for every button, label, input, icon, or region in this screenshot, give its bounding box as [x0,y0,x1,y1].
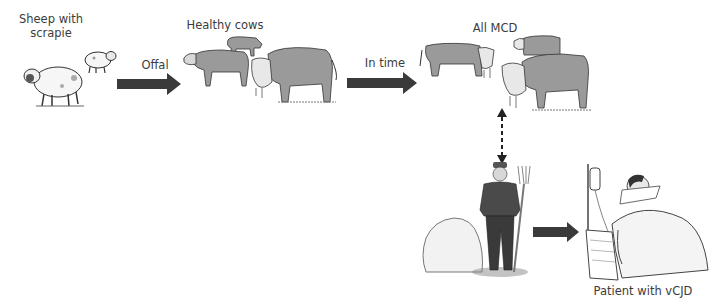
sheep-label-line1: Sheep with [16,12,86,26]
dashed-double-arrow [496,108,508,164]
mcd-cow-left-icon [420,42,498,82]
in-time-arrow [347,72,419,94]
patient-label: Patient with vCJD [583,284,703,298]
sheep-large-icon [22,60,86,108]
sheep-label: Sheep with scrapie [16,12,86,40]
cow-with-mcd-icon [240,46,338,106]
all-mcd-label: All MCD [460,21,530,35]
farmer-icon [474,160,540,280]
farmer-to-patient-arrow [533,222,581,242]
healthy-cows-label: Healthy cows [180,18,270,32]
sheep-label-line2: scrapie [16,26,86,40]
offal-arrow [117,73,183,95]
offal-label: Offal [130,58,180,72]
haystack-icon [420,216,482,274]
sheep-small-icon [82,48,118,74]
mcd-cow-front-icon [492,50,592,114]
hospital-bed-icon [582,160,712,280]
in-time-label: In time [355,56,415,70]
